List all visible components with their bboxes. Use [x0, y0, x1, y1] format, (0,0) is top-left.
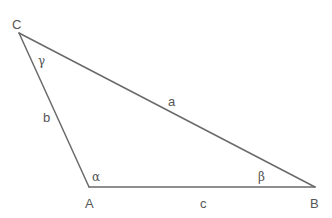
side-label-a: a [168, 94, 176, 109]
side-a [19, 33, 315, 187]
angle-label-alpha: α [92, 170, 100, 184]
triangle-diagram: C A B a b c α β γ [0, 0, 332, 218]
vertex-label-b: B [310, 196, 319, 211]
angle-label-beta: β [258, 170, 265, 184]
angle-label-gamma: γ [38, 54, 45, 68]
vertex-label-c: C [12, 17, 21, 32]
side-label-c: c [200, 196, 207, 211]
side-label-b: b [43, 110, 50, 125]
side-b [19, 33, 89, 187]
vertex-label-a: A [85, 196, 94, 211]
